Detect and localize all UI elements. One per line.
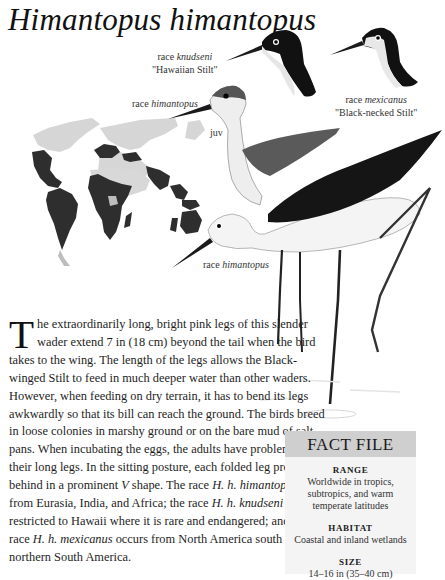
range-value: Worldwide in tropics, subtropics, and wa… xyxy=(285,476,416,512)
article-body: The extraordinarily long, bright pink le… xyxy=(9,316,331,567)
common-name: "Hawaiian Stilt" xyxy=(152,64,218,75)
common-name: "Black-necked Stilt" xyxy=(335,107,417,118)
italic-run: V xyxy=(121,478,129,492)
caption-mexicanus: race mexicanus "Black-necked Stilt" xyxy=(335,93,417,119)
fact-file-header: FACT FILE xyxy=(285,431,416,457)
text-run: shape. The race xyxy=(129,478,212,492)
caption-himantopus-juv: race himantopus xyxy=(132,97,198,110)
habitat-value: Coastal and inland wetlands xyxy=(285,534,416,546)
head-knudseni xyxy=(226,30,316,97)
race-name: himantopus xyxy=(151,98,198,109)
drop-cap: T xyxy=(9,318,34,350)
caption-knudseni: race knudseni "Hawaiian Stilt" xyxy=(152,50,218,76)
head-mexicanus xyxy=(330,28,418,88)
italic-run: H. h. knudseni xyxy=(212,496,284,510)
fact-habitat: HABITAT Coastal and inland wetlands xyxy=(285,522,416,546)
caption-himantopus-adult: race himantopus xyxy=(203,258,269,271)
race-name: knudseni xyxy=(177,51,213,62)
caption-juv: juv xyxy=(210,126,223,139)
race-name: mexicanus xyxy=(365,94,407,105)
range-label: RANGE xyxy=(285,464,416,476)
size-value: 14–16 in (35–40 cm) xyxy=(285,568,416,580)
distribution-map xyxy=(32,118,205,266)
race-name: himantopus xyxy=(222,259,269,270)
fact-size: SIZE 14–16 in (35–40 cm) xyxy=(285,556,416,580)
fact-range: RANGE Worldwide in tropics, subtropics, … xyxy=(285,464,416,512)
habitat-label: HABITAT xyxy=(285,522,416,534)
text-run: he extraordinarily long, bright pink leg… xyxy=(9,317,325,492)
italic-run: H. h. mexicanus xyxy=(33,532,113,546)
fact-file-box: FACT FILE RANGE Worldwide in tropics, su… xyxy=(285,431,416,574)
article-text: he extraordinarily long, bright pink leg… xyxy=(9,317,325,564)
size-label: SIZE xyxy=(285,556,416,568)
